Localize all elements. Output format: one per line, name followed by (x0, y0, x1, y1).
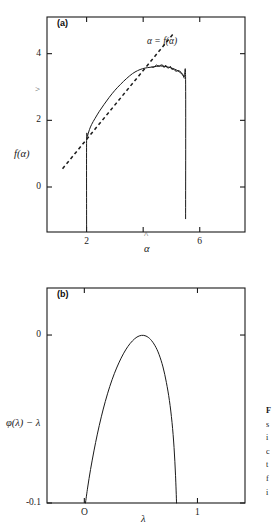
panel-b-x-axis-label-text: λ (141, 513, 146, 524)
panel-b-plot (0, 265, 277, 530)
y-axis-scan-artifact: > (35, 84, 40, 94)
y-tick-label: 0 (1, 329, 41, 339)
caption-line: i (266, 431, 277, 445)
y-tick-label: 2 (1, 114, 41, 124)
svg-a-content (47, 17, 245, 232)
plot-frame (47, 17, 245, 232)
caption-line: t (266, 458, 277, 472)
panel-b-tag: (b) (57, 289, 69, 299)
figure-root: (a) α = f(α) > ^ f(α) α (b) φ(λ) − λ λ F… (0, 0, 277, 530)
caption-line: i (266, 486, 277, 500)
panel-b (0, 265, 277, 530)
x-axis-scan-artifact: ^ (144, 230, 148, 240)
tangent-line-annotation: α = f(α) (147, 36, 177, 46)
panel-a-tag: (a) (57, 18, 68, 28)
x-tick-label: O (64, 507, 104, 517)
plot-frame (47, 288, 245, 503)
x-tick-label: 2 (67, 236, 107, 246)
x-tick-label: 1 (177, 507, 217, 517)
figure-caption-clipped: Fsictfi (266, 404, 277, 516)
panel-a-x-axis-label-text: α (144, 243, 150, 254)
panel-b-x-axis-label: λ (141, 513, 146, 524)
data-curve (87, 66, 186, 227)
x-tick-label: 6 (180, 236, 220, 246)
svg-b-content (47, 288, 245, 503)
y-tick-label: 4 (1, 48, 41, 58)
caption-line: s (266, 418, 277, 432)
y-tick-label: 0 (1, 181, 41, 191)
panel-b-y-axis-label-text: φ(λ) − λ (6, 417, 40, 428)
caption-line: c (266, 445, 277, 459)
caption-line: F (266, 404, 277, 418)
panel-a-y-axis-label: f(α) (14, 148, 29, 159)
y-tick-label: -0.1 (1, 497, 41, 507)
panel-a-y-axis-label-text: f(α) (14, 148, 29, 159)
data-curve (85, 335, 176, 503)
panel-a-plot (0, 0, 277, 265)
caption-line: f (266, 472, 277, 486)
tangent-line (63, 34, 173, 168)
panel-a: (a) α = f(α) > ^ f(α) α (0, 0, 277, 265)
panel-b-y-axis-label: φ(λ) − λ (6, 417, 40, 428)
panel-a-x-axis-label: α (144, 243, 150, 254)
